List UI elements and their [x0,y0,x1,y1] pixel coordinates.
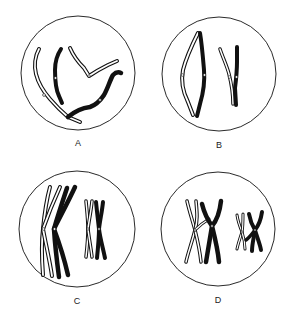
panel-label-c: C [67,296,87,306]
chromosome-b-dark-long [197,33,206,116]
panel-label-b: B [209,140,229,150]
chromosome-a-dark-long [68,72,121,117]
meiosis-figure: A B C D [0,0,290,324]
chromosome-a-dark-short [54,49,62,103]
cell-circle-c [19,171,135,287]
panel-label-a: A [68,138,88,148]
chromosome-b-dark-short [235,47,238,105]
diagram-canvas [0,0,290,324]
panel-d [161,172,275,286]
chromosome-c-dark-small [96,202,105,258]
chromosome-a-light-v [70,48,117,77]
panel-c [19,171,135,287]
chromosome-d-dark-small [246,212,262,251]
panel-a [21,16,135,130]
chromosome-b-light-long [181,33,198,115]
chromosome-c-dark-large [53,187,75,277]
panel-b [162,17,276,131]
chromosome-d-dark-large [202,201,221,262]
chromosome-b-light-short [220,49,233,104]
chromosome-d-light-small [237,214,245,249]
chromosome-c-light-small [86,201,92,257]
panel-label-d: D [208,295,228,305]
cell-circle-b [162,17,276,131]
